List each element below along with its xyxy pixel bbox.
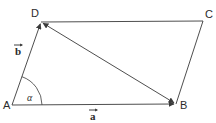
vector-a-line — [12, 104, 174, 105]
diagonal-db-line — [43, 23, 174, 102]
vector-diagram-figure: A B C D a b α — [0, 0, 216, 123]
vector-label-b: b — [15, 43, 21, 57]
vector-label-a: a — [90, 108, 96, 122]
over-arrow-icon — [89, 108, 98, 112]
over-arrow-icon — [14, 43, 23, 47]
vertex-label-d: D — [31, 8, 39, 19]
vertex-label-b: B — [180, 100, 187, 111]
angle-label-alpha: α — [27, 93, 32, 103]
edge-dc — [41, 21, 203, 22]
edge-cb — [176, 21, 203, 104]
vertex-label-c: C — [205, 9, 213, 20]
vertex-label-a: A — [3, 100, 10, 111]
